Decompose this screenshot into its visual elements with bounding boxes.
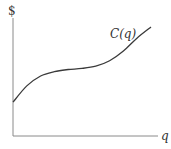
chart: $ q C(q) [0, 0, 171, 149]
y-axis-label: $ [8, 4, 16, 18]
x-axis-label: q [161, 129, 169, 143]
curve-annotation: C(q) [110, 27, 137, 41]
